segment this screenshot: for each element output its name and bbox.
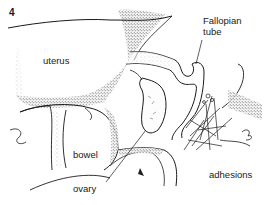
adhesions-shape bbox=[184, 94, 232, 150]
label-fallopian-tube-line1: Fallopian bbox=[203, 16, 242, 26]
fallopian-tube-leader-line bbox=[196, 40, 202, 64]
label-uterus: uterus bbox=[43, 56, 69, 66]
label-fallopian-tube-line2: tube bbox=[203, 27, 222, 37]
figure-number: 4 bbox=[9, 8, 15, 18]
right-tissue-shape bbox=[220, 64, 262, 146]
label-adhesions: adhesions bbox=[209, 170, 252, 180]
label-bowel: bowel bbox=[73, 150, 98, 160]
label-ovary: ovary bbox=[73, 184, 96, 194]
ovary-shape bbox=[130, 70, 166, 133]
